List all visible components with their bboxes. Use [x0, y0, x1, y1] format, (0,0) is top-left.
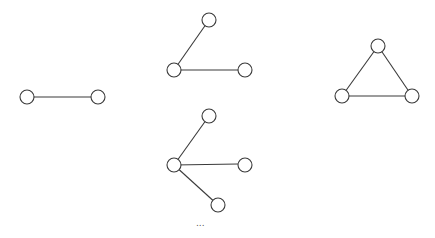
edge — [378, 46, 412, 96]
edge — [342, 46, 378, 96]
edge — [174, 164, 238, 165]
edge — [174, 116, 209, 165]
node — [20, 90, 34, 104]
node — [202, 109, 216, 123]
graph-star-three-edges — [167, 109, 252, 212]
node — [405, 89, 419, 103]
node — [202, 13, 216, 27]
edge — [174, 165, 218, 205]
edge — [174, 20, 209, 70]
graph-path-two-edges — [167, 13, 252, 77]
node — [211, 198, 225, 212]
node — [238, 63, 252, 77]
node — [335, 89, 349, 103]
continuation-ellipsis: ... — [196, 218, 205, 228]
node — [371, 39, 385, 53]
node — [167, 63, 181, 77]
graph-triangle — [335, 39, 419, 103]
node — [238, 158, 252, 172]
graph-single-edge — [20, 90, 105, 104]
graph-diagram — [0, 0, 435, 238]
node — [167, 158, 181, 172]
node — [91, 90, 105, 104]
